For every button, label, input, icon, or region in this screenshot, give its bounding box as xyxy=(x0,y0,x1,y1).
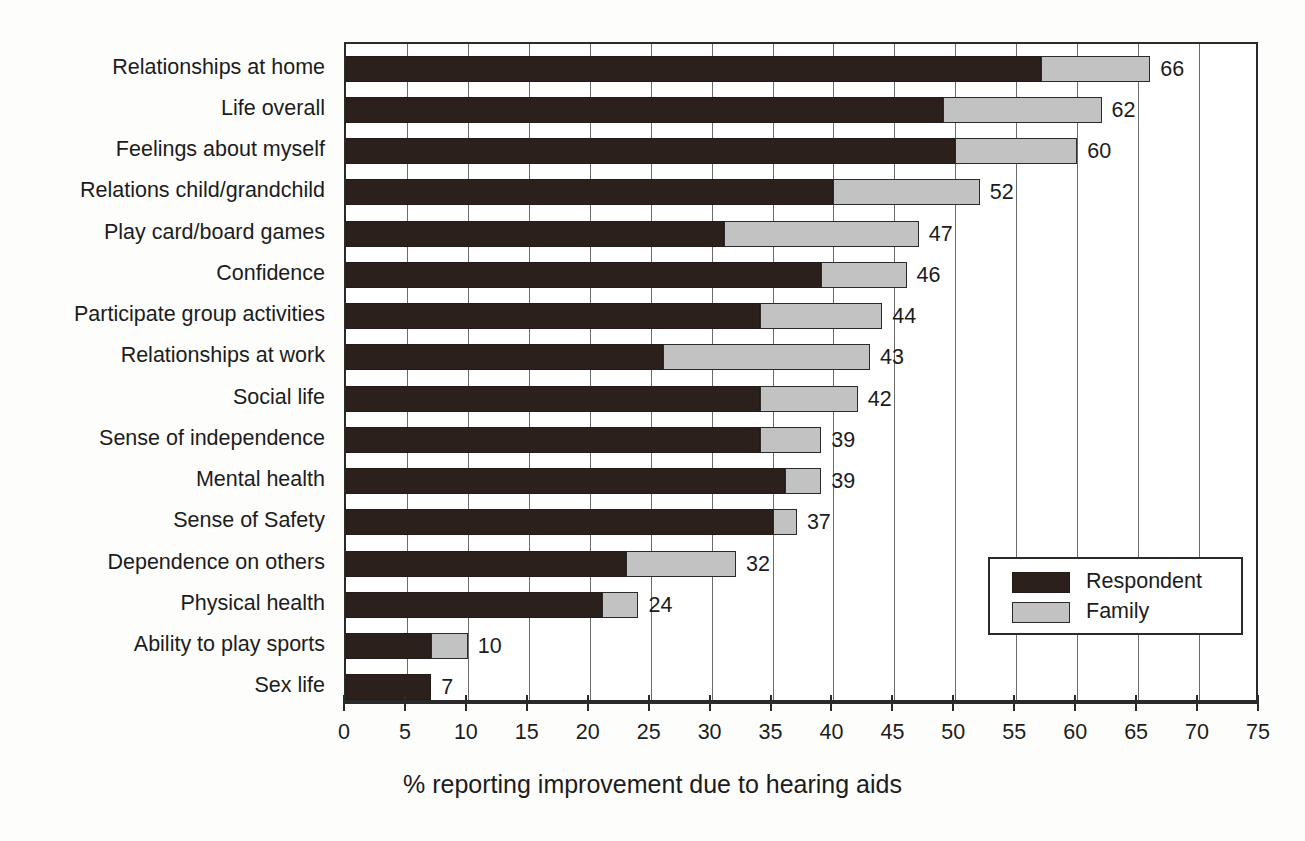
bar-value-label: 37 xyxy=(807,509,831,535)
bar-segment-family xyxy=(760,427,821,453)
bar-row: 7 xyxy=(346,674,1260,700)
x-tick xyxy=(952,695,954,711)
x-tick xyxy=(343,695,345,711)
bar-segment-respondent xyxy=(346,303,760,329)
x-tick xyxy=(1196,695,1198,711)
x-tick-label: 25 xyxy=(637,720,661,745)
bar-row: 43 xyxy=(346,344,1260,370)
bar-row: 39 xyxy=(346,427,1260,453)
bar-segment-family xyxy=(760,386,857,412)
bar-segment-respondent xyxy=(346,551,626,577)
x-tick-label: 70 xyxy=(1185,720,1209,745)
category-label: Play card/board games xyxy=(104,222,325,244)
bar-value-label: 42 xyxy=(868,386,892,412)
legend-swatch-respondent xyxy=(1012,572,1070,593)
x-tick xyxy=(1135,695,1137,711)
bar-row: 39 xyxy=(346,468,1260,494)
x-tick-label: 50 xyxy=(941,720,965,745)
bar-row: 10 xyxy=(346,633,1260,659)
bar-value-label: 39 xyxy=(831,468,855,494)
bar-segment-respondent xyxy=(346,179,833,205)
x-tick-label: 60 xyxy=(1063,720,1087,745)
bar-segment-respondent xyxy=(346,592,602,618)
bar-chart: Relationships at homeLife overallFeeling… xyxy=(0,0,1305,841)
bar-segment-respondent xyxy=(346,344,663,370)
category-label: Relationships at work xyxy=(121,345,325,367)
x-tick xyxy=(891,695,893,711)
bar-segment-family xyxy=(821,262,906,288)
category-label: Sense of Safety xyxy=(173,510,325,532)
bar-segment-respondent xyxy=(346,633,431,659)
x-tick-label: 45 xyxy=(880,720,904,745)
category-label: Social life xyxy=(233,387,325,409)
bar-row: 62 xyxy=(346,97,1260,123)
bar-row: 42 xyxy=(346,386,1260,412)
bar-segment-respondent xyxy=(346,138,955,164)
x-tick xyxy=(1074,695,1076,711)
bar-segment-respondent xyxy=(346,468,785,494)
bar-segment-respondent xyxy=(346,221,724,247)
bar-segment-family xyxy=(602,592,639,618)
bar-segment-respondent xyxy=(346,386,760,412)
category-label: Confidence xyxy=(216,263,325,285)
x-tick xyxy=(587,695,589,711)
category-label: Ability to play sports xyxy=(134,634,325,656)
x-tick-label: 20 xyxy=(576,720,600,745)
bar-value-label: 32 xyxy=(746,551,770,577)
x-tick xyxy=(648,695,650,711)
x-axis-line xyxy=(344,702,1258,704)
bar-segment-family xyxy=(1041,56,1151,82)
bar-row: 44 xyxy=(346,303,1260,329)
x-tick-label: 65 xyxy=(1124,720,1148,745)
bar-row: 37 xyxy=(346,509,1260,535)
bar-segment-respondent xyxy=(346,427,760,453)
bar-value-label: 66 xyxy=(1160,56,1184,82)
category-axis: Relationships at homeLife overallFeeling… xyxy=(0,43,333,702)
bar-row: 60 xyxy=(346,138,1260,164)
bar-value-label: 44 xyxy=(892,303,916,329)
legend-label-family: Family xyxy=(1086,601,1149,623)
bar-segment-respondent xyxy=(346,97,943,123)
x-tick xyxy=(404,695,406,711)
x-tick-label: 40 xyxy=(819,720,843,745)
category-label: Dependence on others xyxy=(107,552,325,574)
x-tick xyxy=(526,695,528,711)
category-label: Sex life xyxy=(254,675,325,697)
bar-segment-family xyxy=(724,221,919,247)
bar-segment-family xyxy=(431,633,468,659)
bar-segment-family xyxy=(943,97,1101,123)
x-tick-label: 5 xyxy=(399,720,411,745)
x-tick-label: 35 xyxy=(759,720,783,745)
x-axis: 051015202530354045505560657075 xyxy=(344,702,1258,772)
bar-value-label: 10 xyxy=(478,633,502,659)
bar-segment-family xyxy=(833,179,979,205)
bar-segment-family xyxy=(760,303,882,329)
legend-swatch-family xyxy=(1012,602,1070,623)
bar-value-label: 39 xyxy=(831,427,855,453)
bar-row: 47 xyxy=(346,221,1260,247)
bar-segment-respondent xyxy=(346,674,431,700)
bar-row: 66 xyxy=(346,56,1260,82)
x-tick xyxy=(465,695,467,711)
bar-segment-family xyxy=(955,138,1077,164)
category-label: Participate group activities xyxy=(74,304,325,326)
legend-item-family: Family xyxy=(1012,598,1241,626)
x-tick xyxy=(770,695,772,711)
x-tick-label: 10 xyxy=(454,720,478,745)
bar-value-label: 52 xyxy=(990,179,1014,205)
bar-segment-family xyxy=(785,468,822,494)
bar-segment-family xyxy=(663,344,870,370)
category-label: Sense of independence xyxy=(99,428,325,450)
category-label: Relations child/grandchild xyxy=(80,180,325,202)
x-tick-label: 30 xyxy=(698,720,722,745)
legend-item-respondent: Respondent xyxy=(1012,568,1241,596)
x-tick xyxy=(1013,695,1015,711)
category-label: Mental health xyxy=(196,469,325,491)
category-label: Physical health xyxy=(180,593,325,615)
bar-segment-respondent xyxy=(346,509,773,535)
x-axis-title: % reporting improvement due to hearing a… xyxy=(0,770,1305,799)
x-tick-label: 75 xyxy=(1246,720,1270,745)
bar-value-label: 62 xyxy=(1112,97,1136,123)
x-tick-label: 15 xyxy=(515,720,539,745)
bar-segment-respondent xyxy=(346,56,1041,82)
